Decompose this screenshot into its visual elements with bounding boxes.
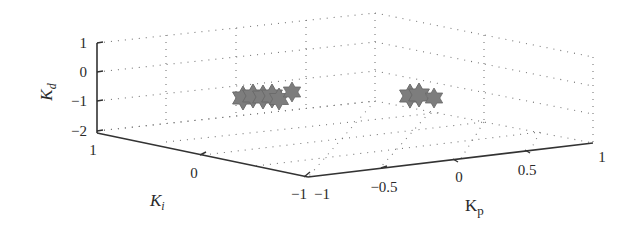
data-series-cluster-1 (233, 82, 301, 110)
scatter-3d-plot: 1 0 −1 −2 1 0 −1 −1 −0.5 0 0.5 1 Kd Ki K… (0, 0, 627, 234)
kd-axis-label: Kd (37, 82, 59, 101)
kp-axis (308, 143, 593, 177)
kd-tick-neg1: −1 (71, 93, 87, 109)
kp-tick-0: 0 (455, 169, 463, 185)
ki-tick-labels: 1 0 −1 (89, 142, 307, 202)
kd-tick-labels: 1 0 −1 −2 (71, 35, 87, 139)
svg-text:Kp: Kp (465, 196, 484, 218)
axes (97, 43, 593, 177)
data-series-cluster-2 (400, 83, 443, 108)
kd-tick-0: 0 (80, 64, 88, 80)
ki-axis-label: Ki (149, 191, 165, 213)
kd-tick-neg2: −2 (71, 123, 87, 139)
svg-text:Ki: Ki (149, 191, 165, 213)
kp-tick-labels: −1 −0.5 0 0.5 1 (314, 149, 606, 202)
axis-ticks (97, 42, 530, 177)
kp-tick-1: 1 (598, 149, 606, 165)
ki-tick-0: 0 (190, 165, 198, 181)
kp-axis-label: Kp (465, 196, 484, 218)
ki-axis (97, 133, 308, 177)
svg-text:Kd: Kd (37, 82, 59, 101)
kp-tick-neg1: −1 (314, 186, 330, 202)
kp-tick-neg0.5: −0.5 (370, 179, 397, 195)
ki-tick-1: 1 (89, 142, 97, 158)
kd-tick-1: 1 (80, 35, 88, 51)
ki-tick-neg1: −1 (291, 186, 307, 202)
kp-tick-0.5: 0.5 (518, 162, 537, 178)
